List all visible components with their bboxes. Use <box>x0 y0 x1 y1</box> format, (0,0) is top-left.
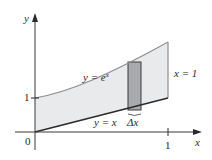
approximating-strip <box>128 62 141 110</box>
origin-label: 0 <box>25 136 31 147</box>
curve-exp-exponent: x <box>106 71 109 79</box>
curve-exp-lhs: y = e <box>83 71 106 83</box>
y-axis-arrow-icon <box>32 13 38 22</box>
x-tick-label: 1 <box>165 140 171 151</box>
y-tick-label: 1 <box>24 92 30 103</box>
line-y-equals-x-label: y = x <box>94 117 117 128</box>
x-axis-label: x <box>195 137 200 148</box>
curve-exp-label: y = ex <box>83 72 109 83</box>
strip-width-label: Δx <box>127 117 138 128</box>
x-axis-arrow-icon <box>193 129 202 135</box>
boundary-label: x = 1 <box>174 68 197 79</box>
y-axis-label: y <box>24 13 29 24</box>
